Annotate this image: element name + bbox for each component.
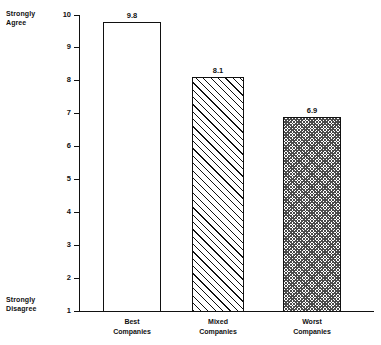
- y-axis-tick-label-text: 6: [58, 142, 71, 150]
- bar: [103, 22, 161, 312]
- y-axis-tick-label-text: 8: [58, 76, 71, 84]
- y-axis-tick-label: 3: [58, 241, 71, 249]
- y-axis-tick: [74, 15, 79, 16]
- scale-label-strongly-disagree: Strongly Disagree: [6, 295, 36, 313]
- y-axis-tick-label: 6: [58, 142, 71, 150]
- y-axis-tick: [74, 80, 79, 81]
- bar: [192, 77, 244, 312]
- bar-value-label: 8.1: [198, 66, 238, 75]
- y-axis-tick-label: 10: [58, 11, 71, 19]
- y-axis-tick-label-text: 2: [58, 274, 71, 282]
- y-axis-line: [79, 15, 80, 312]
- y-axis-tick: [74, 278, 79, 279]
- y-axis-tick-label: 8: [58, 76, 71, 84]
- y-axis-tick-label-text: 10: [58, 11, 71, 19]
- y-axis-tick: [74, 113, 79, 114]
- y-axis-tick-label-text: 3: [58, 241, 71, 249]
- scale-label-strongly-agree: Strongly Agree: [6, 9, 35, 27]
- y-axis-tick-label: 9: [58, 43, 71, 51]
- bar-value-label: 6.9: [292, 106, 332, 115]
- y-axis-tick-label-text: 5: [58, 175, 71, 183]
- bar-value-label: 9.8: [112, 11, 152, 20]
- bar: [283, 117, 341, 312]
- y-axis-tick: [74, 212, 79, 213]
- y-axis-tick-label: 5: [58, 175, 71, 183]
- x-axis-category-label: Mixed Companies: [175, 317, 261, 337]
- y-axis-tick: [74, 146, 79, 147]
- y-axis-tick-label: 7: [58, 109, 71, 117]
- y-axis-tick-label-text: 4: [58, 208, 71, 216]
- x-axis-category-label: Worst Companies: [269, 317, 355, 337]
- y-axis-tick: [74, 245, 79, 246]
- y-axis-tick-label: 4: [58, 208, 71, 216]
- y-axis-tick-label: 1: [58, 307, 71, 315]
- y-axis-tick-label-text: 7: [58, 109, 71, 117]
- y-axis-tick-label-text: 9: [58, 43, 71, 51]
- y-axis-tick-label-text: 1: [58, 307, 71, 315]
- x-axis-category-label: Best Companies: [89, 317, 175, 337]
- y-axis-tick: [74, 179, 79, 180]
- bar-chart: Strongly Agree Strongly Disagree 1098765…: [0, 0, 381, 345]
- y-axis-tick-label: 2: [58, 274, 71, 282]
- y-axis-tick: [74, 47, 79, 48]
